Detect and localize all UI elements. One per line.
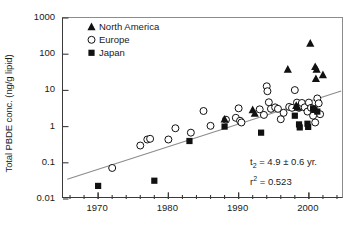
data-point — [200, 107, 207, 114]
legend-marker — [87, 23, 95, 31]
doubling-time-text: t2 = 4.9 ± 0.6 yr. — [250, 155, 317, 172]
legend-label: North America — [98, 20, 159, 33]
statistics-annotation: t2 = 4.9 ± 0.6 yr. r2 = 0.523 — [250, 155, 317, 188]
data-point — [315, 100, 322, 107]
r-squared-text: r2 = 0.523 — [250, 172, 317, 188]
x-tick-label: 1980 — [147, 202, 187, 213]
x-tick-label: 1990 — [218, 202, 258, 213]
legend-item: North America — [86, 20, 159, 33]
data-point — [165, 136, 172, 143]
y-tick-label: 1 — [0, 121, 55, 131]
data-point — [147, 135, 154, 142]
legend-item: Europe — [86, 33, 159, 46]
data-point — [264, 88, 271, 95]
data-point — [297, 124, 303, 130]
data-point — [137, 142, 144, 149]
data-point — [186, 138, 192, 144]
data-point — [258, 130, 264, 136]
data-point — [284, 65, 292, 73]
data-point — [238, 119, 245, 126]
data-point — [109, 164, 116, 171]
legend: North AmericaEuropeJapan — [86, 20, 159, 60]
filled-square-icon — [86, 47, 98, 58]
x-tick-label: 1970 — [77, 202, 117, 213]
y-tick-label: 1000 — [0, 12, 55, 22]
data-point — [306, 39, 314, 47]
data-point — [207, 122, 214, 129]
legend-marker — [88, 37, 95, 44]
doubling-time-equals: = 4.9 — [257, 156, 284, 167]
pbde-trend-chart: Total PBDE conc. (ng/g lipid) 0.010.1110… — [0, 0, 361, 227]
data-point — [187, 129, 194, 136]
data-point — [305, 124, 311, 130]
y-tick-label: 100 — [0, 48, 55, 58]
data-point — [260, 111, 267, 118]
data-point — [312, 74, 320, 82]
legend-marker — [88, 50, 94, 56]
data-point — [292, 113, 298, 119]
y-tick-label: 0.1 — [0, 157, 55, 167]
data-point — [95, 183, 101, 189]
data-point — [280, 109, 287, 116]
y-tick-label: 10 — [0, 84, 55, 94]
r-squared-equals: = 0.523 — [257, 176, 292, 187]
data-point — [172, 125, 179, 132]
data-point — [151, 178, 157, 184]
data-point — [312, 119, 319, 126]
x-tick-label: 2000 — [288, 202, 328, 213]
legend-item: Japan — [86, 46, 159, 59]
data-point — [291, 87, 298, 94]
data-point — [221, 124, 227, 130]
legend-label: Japan — [98, 46, 125, 59]
data-point — [314, 108, 320, 114]
open-circle-icon — [86, 34, 98, 45]
data-point — [265, 99, 272, 106]
y-tick-label: 0.01 — [0, 193, 55, 203]
doubling-time-error: 0.6 yr. — [288, 156, 317, 167]
legend-label: Europe — [98, 33, 130, 46]
data-point — [235, 105, 242, 112]
filled-triangle-icon — [86, 21, 98, 32]
